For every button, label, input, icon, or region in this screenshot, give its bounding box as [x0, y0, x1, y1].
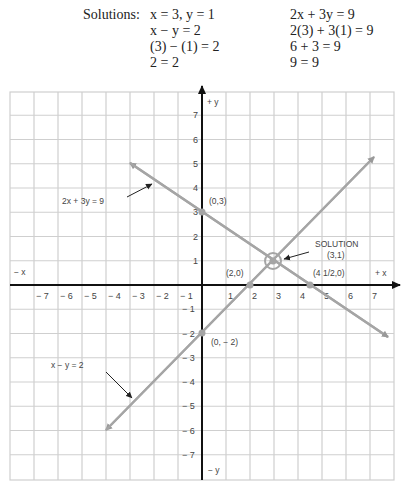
y-tick-label: − 6	[182, 426, 195, 436]
point-2-0	[247, 282, 254, 289]
solution-title: SOLUTION	[315, 239, 358, 249]
line2-label: x − y = 2	[51, 360, 84, 370]
point-4half-0	[307, 282, 314, 289]
solution-arrow	[284, 252, 309, 259]
y-tick-label: 7	[193, 110, 198, 120]
y-tick-label: − 2	[182, 329, 195, 339]
point-0-neg2	[199, 330, 206, 337]
y-tick-label: 4	[193, 183, 198, 193]
x-tick-label: 4	[300, 291, 305, 301]
coordinate-graph: − 7− 6− 5− 4− 3− 2− 11234567 7654321− 1−…	[0, 0, 416, 492]
x-tick-label: 6	[348, 291, 353, 301]
y-tick-label: − 5	[182, 401, 195, 411]
y-tick-label: 1	[193, 256, 198, 266]
y-tick-label: − 7	[182, 450, 195, 460]
solution-point	[270, 258, 277, 265]
pos-y-label: + y	[207, 97, 219, 107]
x-tick-label: 3	[276, 291, 281, 301]
y-tick-label: − 4	[182, 377, 195, 387]
y-tick-label: 5	[193, 159, 198, 169]
y-tick-label: 6	[193, 135, 198, 145]
x-tick-label: 2	[252, 291, 257, 301]
x-tick-label: − 7	[36, 291, 49, 301]
label-0-neg2: (0, − 2)	[211, 337, 238, 347]
x-tick-label: − 5	[84, 291, 97, 301]
x-tick-label: − 3	[132, 291, 145, 301]
label-4half-0: (4 1/2,0)	[313, 268, 345, 278]
y-tick-label: − 3	[182, 353, 195, 363]
x-tick-label: 7	[372, 291, 377, 301]
x-tick-label: − 4	[108, 291, 121, 301]
y-tick-label: − 1	[182, 304, 195, 314]
line2-arrow	[106, 372, 132, 398]
solution-coords: (3,1)	[327, 250, 345, 260]
x-tick-label: 1	[228, 291, 233, 301]
pos-x-label: + x	[375, 268, 387, 278]
point-0-3	[199, 209, 206, 216]
label-2-0: (2,0)	[226, 268, 244, 278]
line1-arrow	[127, 184, 152, 197]
x-tick-label: − 1	[180, 291, 193, 301]
label-0-3: (0,3)	[209, 196, 227, 206]
line1-label: 2x + 3y = 9	[62, 196, 104, 206]
x-tick-label: − 2	[156, 291, 169, 301]
y-tick-label: 2	[193, 232, 198, 242]
neg-y-label: − y	[208, 465, 220, 475]
x-tick-label: − 6	[60, 291, 73, 301]
neg-x-label: − x	[14, 267, 26, 277]
